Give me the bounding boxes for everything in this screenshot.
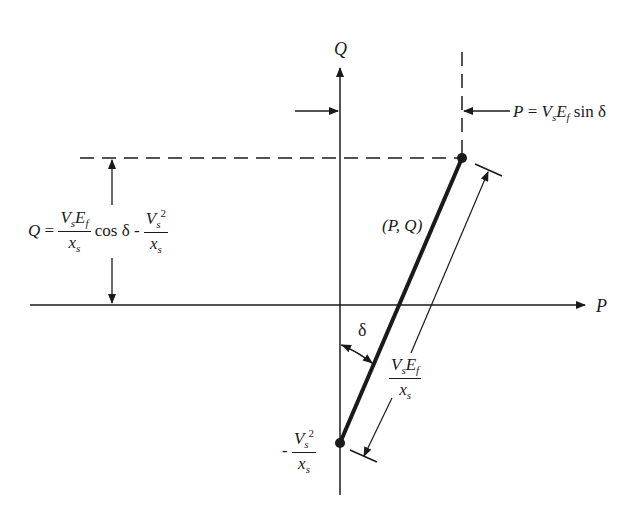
len-e: E (406, 355, 416, 374)
p-eq-angle: δ (598, 102, 606, 121)
q-eq-den1-sub: s (76, 243, 80, 255)
q-eq-lhs: Q (28, 221, 40, 240)
q-eq-den2: x (150, 234, 158, 253)
q-eq-angle: δ (122, 221, 130, 240)
len-den: x (399, 380, 407, 399)
q-eq-minus: - (134, 221, 140, 240)
q-eq-num2-sup: 2 (161, 207, 167, 219)
q-eq-num1-e: E (75, 208, 85, 227)
offset-v-sub: s (304, 438, 308, 450)
q-eq-den1: x (69, 233, 77, 252)
diagram-canvas (0, 0, 641, 520)
offset-den: x (298, 454, 306, 473)
p-eq-e: E (556, 102, 566, 121)
point-pq-label: (P, Q) (382, 217, 422, 234)
length-dim-arrow-down (364, 398, 392, 456)
len-e-sub: f (416, 364, 419, 376)
length-dim-arrow-up (411, 172, 488, 353)
length-tick-top (475, 164, 502, 176)
p-equation: P = VsEf sin δ (513, 103, 606, 123)
point-pq-dot (457, 153, 467, 163)
len-v: V (391, 355, 401, 374)
q-eq-num2-v-sub: s (156, 218, 160, 230)
delta-arc (341, 345, 372, 363)
p-eq-func: sin (574, 102, 594, 121)
offset-minus: - (282, 441, 288, 460)
offset-v: V (294, 429, 304, 448)
p-eq-equals: = (528, 102, 538, 121)
p-eq-e-sub: f (567, 111, 570, 123)
offset-label: - Vs2 xs (282, 428, 316, 475)
segment-length-label: VsEf xs (389, 356, 421, 402)
p-eq-lhs: P (513, 102, 523, 121)
delta-label: δ (358, 321, 366, 339)
q-eq-num2-v: V (146, 209, 156, 228)
offset-sup: 2 (309, 427, 315, 439)
len-den-sub: s (407, 390, 411, 402)
q-equation: Q = VsEf xs cos δ - Vs2 xs (28, 208, 168, 255)
p-eq-v: V (541, 102, 551, 121)
q-eq-num1-v: V (60, 208, 70, 227)
offset-den-sub: s (306, 463, 310, 475)
q-eq-fraction-1: VsEf xs (58, 209, 90, 255)
q-eq-fraction-2: Vs2 xs (144, 208, 168, 255)
q-axis-label: Q (334, 40, 347, 58)
q-eq-equals: = (45, 221, 55, 240)
length-tick-bottom (350, 450, 377, 462)
p-axis-label: P (596, 297, 607, 315)
q-eq-num1-e-sub: f (85, 217, 88, 229)
offset-point-dot (335, 438, 345, 448)
q-eq-func: cos (95, 221, 118, 240)
q-eq-den2-sub: s (158, 243, 162, 255)
